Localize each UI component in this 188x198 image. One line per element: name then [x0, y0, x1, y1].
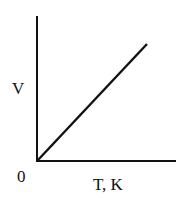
origin-label: 0: [17, 168, 26, 185]
data-line: [38, 44, 147, 160]
x-axis-label: T, K: [93, 176, 123, 193]
y-axis-label: V: [12, 80, 24, 97]
chart-plot: [0, 0, 188, 198]
